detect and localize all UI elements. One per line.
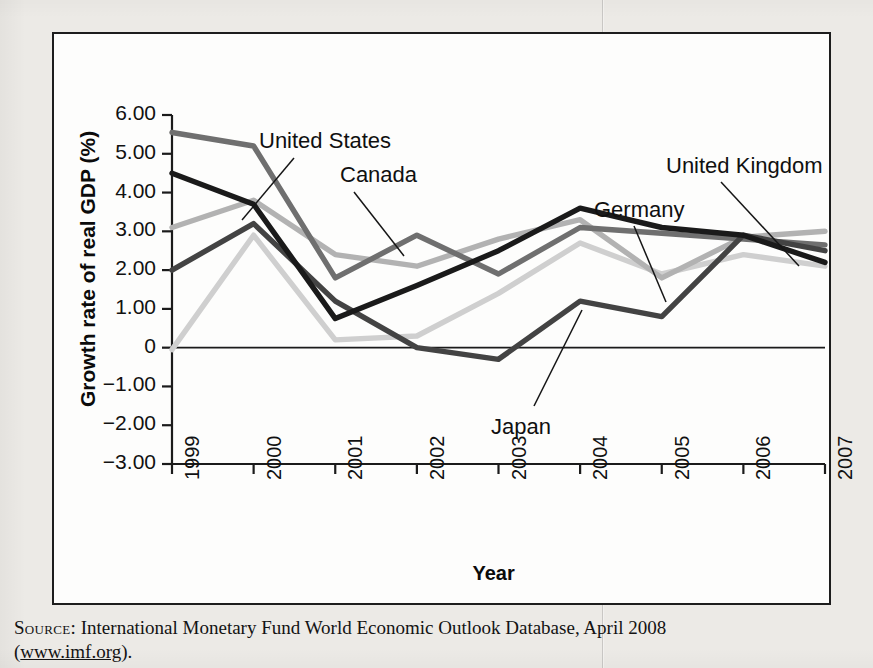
y-tick-label: 1.00 xyxy=(60,295,156,319)
series-label-united-kingdom: United Kingdom xyxy=(666,153,823,179)
x-tick-label: 2007 xyxy=(834,436,857,481)
x-tick-label: 2002 xyxy=(426,436,449,481)
y-tick-label: 2.00 xyxy=(60,256,156,280)
y-tick-label: −2.00 xyxy=(60,411,156,435)
y-tick-label: 6.00 xyxy=(60,101,156,125)
y-tick-label: −3.00 xyxy=(60,450,156,474)
y-tick-label: 0 xyxy=(60,334,156,358)
x-tick-label: 2006 xyxy=(752,436,775,481)
x-tick-label: 2004 xyxy=(589,436,612,481)
series-label-japan: Japan xyxy=(491,414,551,440)
source-caption: Source: International Monetary Fund Worl… xyxy=(14,616,714,665)
series-label-germany: Germany xyxy=(594,197,684,223)
source-url-link[interactable]: www.imf.org xyxy=(20,641,121,662)
source-label: Source: xyxy=(14,617,76,638)
x-axis-title: Year xyxy=(473,562,515,585)
gdp-growth-line-chart xyxy=(54,34,829,603)
x-tick-label: 1999 xyxy=(181,436,204,481)
series-label-united-states: United States xyxy=(259,128,391,154)
x-tick-label: 2000 xyxy=(263,436,286,481)
y-tick-label: 3.00 xyxy=(60,217,156,241)
figure-frame: 6.005.004.003.002.001.000−1.00−2.00−3.00… xyxy=(52,32,831,605)
series-label-canada: Canada xyxy=(340,162,417,188)
y-axis-title: Growth rate of real GDP (%) xyxy=(76,131,100,407)
source-suffix: ). xyxy=(121,641,132,662)
x-tick-label: 2001 xyxy=(344,436,367,481)
y-tick-label: 5.00 xyxy=(60,140,156,164)
x-tick-label: 2003 xyxy=(508,436,531,481)
x-tick-label: 2005 xyxy=(671,436,694,481)
y-tick-label: 4.00 xyxy=(60,179,156,203)
y-tick-label: −1.00 xyxy=(60,372,156,396)
